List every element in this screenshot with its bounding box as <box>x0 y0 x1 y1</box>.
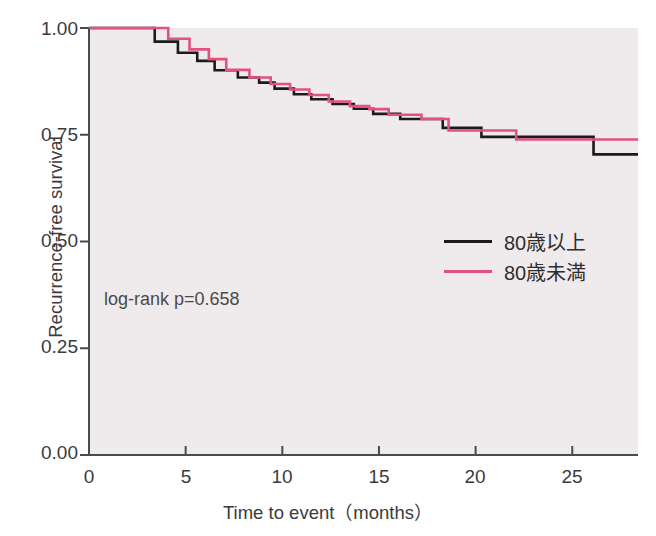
logrank-annotation: log-rank p=0.658 <box>104 289 240 310</box>
y-axis-title: Recurrence-free survival <box>45 87 67 387</box>
legend-line-swatch-younger <box>444 270 492 273</box>
x-axis-title: Time to event（months） <box>0 498 656 524</box>
legend-entry-older: 80歳以上 <box>444 226 586 256</box>
x-tick-label: 25 <box>542 466 602 488</box>
y-tick-label: 1.00 <box>18 18 78 40</box>
legend-label-older: 80歳以上 <box>504 227 586 256</box>
x-tick-label: 10 <box>252 466 312 488</box>
legend-line-swatch-older <box>444 240 492 243</box>
legend-entry-younger: 80歳未満 <box>444 256 586 286</box>
legend: 80歳以上 80歳未満 <box>444 226 586 286</box>
x-tick-label: 0 <box>59 466 119 488</box>
x-tick-label: 5 <box>156 466 216 488</box>
x-tick-label: 20 <box>445 466 505 488</box>
x-tick-label: 15 <box>349 466 409 488</box>
legend-label-younger: 80歳未満 <box>504 257 586 286</box>
y-axis-ticks <box>80 28 89 455</box>
kaplan-meier-figure: 1.00 0.75 0.50 0.25 0.00 0 5 10 15 20 25… <box>0 0 656 536</box>
y-tick-label: 0.00 <box>18 442 78 464</box>
